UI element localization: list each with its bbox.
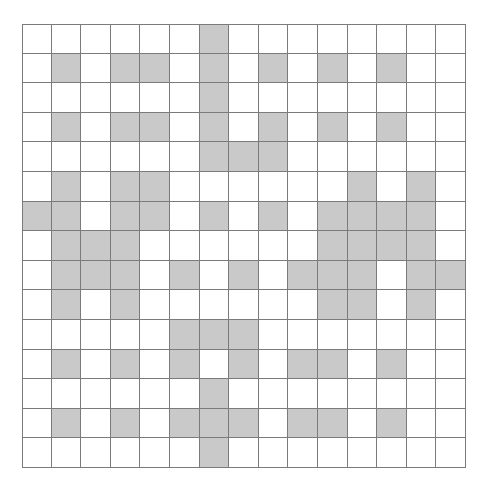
grid-cell <box>229 379 259 409</box>
grid-cell <box>407 142 437 172</box>
grid-cell <box>22 290 52 320</box>
grid-cell <box>288 83 318 113</box>
grid-cell <box>81 113 111 143</box>
grid-cell <box>288 261 318 291</box>
grid-cell <box>259 202 289 232</box>
grid-cell <box>229 438 259 468</box>
grid-cell <box>348 409 378 439</box>
grid-cell <box>140 231 170 261</box>
grid-cell <box>200 231 230 261</box>
grid-cell <box>348 261 378 291</box>
grid-cell <box>377 320 407 350</box>
grid-cell <box>111 409 141 439</box>
grid-cell <box>52 231 82 261</box>
grid-cell <box>288 438 318 468</box>
grid-cell <box>111 113 141 143</box>
grid-cell <box>407 261 437 291</box>
grid-cell <box>140 261 170 291</box>
grid-cell <box>200 142 230 172</box>
grid-cell <box>140 379 170 409</box>
grid-cell <box>229 54 259 84</box>
grid-cell <box>200 202 230 232</box>
grid-cell <box>318 24 348 54</box>
grid-cell <box>229 290 259 320</box>
grid-cell <box>170 202 200 232</box>
grid-cell <box>22 350 52 380</box>
grid-cell <box>170 54 200 84</box>
grid-cell <box>259 350 289 380</box>
grid-cell <box>200 438 230 468</box>
grid-cell <box>436 172 466 202</box>
grid-cell <box>229 350 259 380</box>
grid-cell <box>52 24 82 54</box>
grid-cell <box>229 24 259 54</box>
grid-cell <box>229 142 259 172</box>
grid-cell <box>259 231 289 261</box>
grid-cell <box>318 290 348 320</box>
grid-cell <box>81 409 111 439</box>
grid-cell <box>140 438 170 468</box>
grid-cell <box>170 172 200 202</box>
grid-cell <box>436 290 466 320</box>
grid-cell <box>318 142 348 172</box>
grid-cell <box>348 54 378 84</box>
grid-cell <box>52 142 82 172</box>
grid-cell <box>22 24 52 54</box>
grid-cell <box>140 54 170 84</box>
grid-cell <box>170 231 200 261</box>
grid-cell <box>81 350 111 380</box>
grid-cell <box>259 24 289 54</box>
grid-cell <box>22 261 52 291</box>
grid-cell <box>407 379 437 409</box>
grid-cell <box>111 172 141 202</box>
grid-cell <box>407 54 437 84</box>
grid-cell <box>288 350 318 380</box>
grid-cell <box>200 261 230 291</box>
grid-cell <box>348 142 378 172</box>
grid-cell <box>407 202 437 232</box>
grid-cell <box>348 350 378 380</box>
grid-cell <box>22 83 52 113</box>
grid-cell <box>288 54 318 84</box>
grid-cell <box>407 350 437 380</box>
grid-cell <box>200 409 230 439</box>
grid-cell <box>81 379 111 409</box>
grid-cell <box>111 231 141 261</box>
grid-cell <box>170 290 200 320</box>
grid-cell <box>200 350 230 380</box>
grid-cell <box>52 290 82 320</box>
grid-cell <box>259 379 289 409</box>
grid-cell <box>407 438 437 468</box>
grid-cell <box>407 172 437 202</box>
grid-cell <box>170 83 200 113</box>
grid-cell <box>170 142 200 172</box>
grid-cell <box>81 438 111 468</box>
grid-cell <box>348 113 378 143</box>
grid-cell <box>318 350 348 380</box>
grid-cell <box>318 379 348 409</box>
grid-cell <box>81 172 111 202</box>
grid-cell <box>407 409 437 439</box>
grid-cell <box>170 379 200 409</box>
grid-cell <box>22 320 52 350</box>
grid-cell <box>348 320 378 350</box>
grid-cell <box>259 409 289 439</box>
grid-cell <box>259 320 289 350</box>
grid-cell <box>22 438 52 468</box>
grid-cell <box>200 290 230 320</box>
grid-cell <box>259 54 289 84</box>
grid-cell <box>170 409 200 439</box>
grid-cell <box>229 202 259 232</box>
grid-cell <box>111 54 141 84</box>
grid-cell <box>436 54 466 84</box>
grid-cell <box>318 54 348 84</box>
grid-cell <box>318 202 348 232</box>
grid-cell <box>140 24 170 54</box>
grid-cell <box>229 409 259 439</box>
grid-cell <box>377 202 407 232</box>
grid-cell <box>140 350 170 380</box>
grid-cell <box>200 172 230 202</box>
grid-cell <box>140 83 170 113</box>
grid-cell <box>377 24 407 54</box>
grid-cell <box>170 320 200 350</box>
